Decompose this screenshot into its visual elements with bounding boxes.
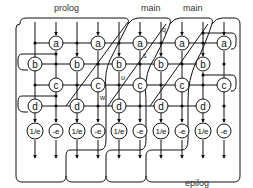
svg-text:1/e: 1/e [71, 127, 83, 136]
svg-text:a: a [95, 38, 101, 49]
node-a: a [49, 36, 63, 50]
annotation-q: q [162, 26, 166, 34]
svg-text:c: c [54, 80, 59, 91]
node-d: d [154, 99, 168, 113]
node-neg-e: -e [175, 124, 189, 138]
svg-text:-e: -e [94, 127, 102, 136]
svg-text:a: a [53, 38, 59, 49]
node-a: a [91, 36, 105, 50]
node-b: b [196, 57, 210, 71]
svg-text:-e: -e [178, 127, 186, 136]
node-inv-e: 1/e [111, 123, 127, 139]
annotation-u: u [121, 74, 125, 81]
svg-text:c: c [96, 80, 101, 91]
svg-text:d: d [74, 101, 80, 112]
svg-text:a: a [179, 38, 185, 49]
svg-text:b: b [200, 59, 206, 70]
node-c: c [217, 78, 231, 92]
node-inv-e: 1/e [27, 123, 43, 139]
svg-text:b: b [32, 59, 38, 70]
node-inv-e: 1/e [153, 123, 169, 139]
svg-text:-e: -e [220, 127, 228, 136]
svg-text:1/e: 1/e [113, 127, 125, 136]
node-b: b [154, 57, 168, 71]
svg-text:1/e: 1/e [29, 127, 41, 136]
main-label-2: main [183, 3, 203, 13]
svg-text:a: a [221, 38, 227, 49]
svg-text:b: b [74, 59, 80, 70]
prolog-label: prolog [54, 3, 79, 13]
main-label-1: main [141, 3, 161, 13]
node-d: d [196, 99, 210, 113]
node-a: a [217, 36, 231, 50]
node-inv-e: 1/e [195, 123, 211, 139]
annotation-s: s [143, 52, 147, 59]
node-c: c [133, 78, 147, 92]
node-neg-e: -e [217, 124, 231, 138]
node-neg-e: -e [133, 124, 147, 138]
node-inv-e: 1/e [69, 123, 85, 139]
node-b: b [112, 57, 126, 71]
node-c: c [49, 78, 63, 92]
svg-text:b: b [158, 59, 164, 70]
node-c: c [175, 78, 189, 92]
epilog-label: epilog [185, 178, 209, 188]
svg-text:1/e: 1/e [155, 127, 167, 136]
pipeline-diagram: prolog main main epilog [0, 0, 253, 188]
node-c: c [91, 78, 105, 92]
svg-text:-e: -e [52, 127, 60, 136]
svg-text:1/e: 1/e [197, 127, 209, 136]
svg-text:d: d [158, 101, 164, 112]
svg-text:-e: -e [136, 127, 144, 136]
node-a: a [133, 36, 147, 50]
svg-text:c: c [180, 80, 185, 91]
node-d: d [112, 99, 126, 113]
svg-text:c: c [138, 80, 143, 91]
svg-text:b: b [116, 59, 122, 70]
node-b: b [70, 57, 84, 71]
node-neg-e: -e [91, 124, 105, 138]
node-neg-e: -e [49, 124, 63, 138]
svg-text:d: d [200, 101, 206, 112]
node-d: d [28, 99, 42, 113]
node-a: a [175, 36, 189, 50]
svg-text:c: c [222, 80, 227, 91]
annotation-w: w [99, 94, 106, 101]
row-e-nodes: 1/e -e 1/e -e 1/e -e 1/e -e 1/e -e [27, 123, 231, 139]
node-d: d [70, 99, 84, 113]
svg-text:d: d [32, 101, 38, 112]
svg-text:d: d [116, 101, 122, 112]
svg-text:a: a [137, 38, 143, 49]
node-b: b [28, 57, 42, 71]
